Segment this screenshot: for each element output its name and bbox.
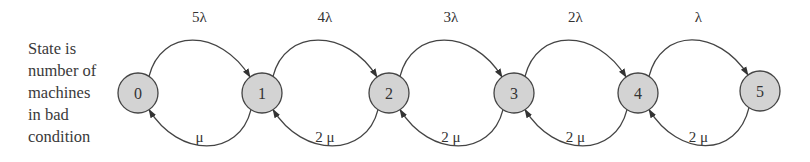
state-label: 5 — [756, 83, 764, 100]
state-node: 1 — [242, 73, 282, 113]
state-node: 2 — [369, 73, 409, 113]
forward-transition-arrow — [400, 40, 502, 77]
forward-rate-label: 3λ — [444, 9, 460, 25]
backward-rate-label: 2 μ — [566, 129, 585, 145]
forward-transition-arrow — [649, 40, 748, 76]
forward-rate-label: 2λ — [568, 9, 584, 25]
state-label: 1 — [258, 85, 266, 102]
forward-rate-label: 4λ — [318, 9, 334, 25]
state-node: 3 — [494, 73, 534, 113]
backward-rate-label: 2 μ — [689, 129, 708, 145]
forward-transition-arrow — [525, 40, 626, 77]
state-node: 5 — [740, 71, 780, 111]
backward-rate-label: μ — [195, 129, 203, 145]
backward-rate-label: 2 μ — [441, 129, 460, 145]
state-transition-diagram: 5λμ4λ2 μ3λ2 μ2λ2 μλ2 μ 012345 — [0, 0, 810, 162]
backward-rate-label: 2 μ — [315, 129, 334, 145]
forward-rate-label: λ — [695, 9, 703, 25]
forward-transition-arrow — [149, 40, 250, 77]
state-label: 2 — [385, 85, 393, 102]
state-node: 4 — [618, 73, 658, 113]
forward-transition-arrow — [273, 40, 377, 77]
state-label: 0 — [134, 85, 142, 102]
forward-rate-label: 5λ — [192, 9, 208, 25]
state-node: 0 — [118, 73, 158, 113]
state-label: 3 — [510, 85, 518, 102]
state-label: 4 — [634, 85, 642, 102]
